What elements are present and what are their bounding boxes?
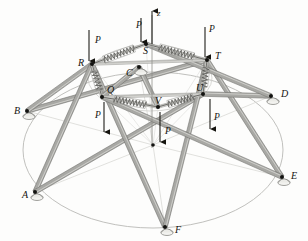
- load-label-Q: P: [94, 110, 101, 120]
- strut-F-R-highlight: [93, 64, 166, 227]
- load-T: P: [205, 24, 215, 57]
- node-dot-B: [25, 109, 29, 113]
- load-label-V: P: [164, 126, 171, 136]
- support-A: [31, 194, 43, 201]
- node-dot-T: [205, 58, 209, 62]
- figure-canvas: z PPPPPP QRSTUVABCDEF: [0, 0, 308, 241]
- load-Q: P: [94, 102, 104, 132]
- node-label-R: R: [77, 57, 84, 68]
- support-E: [278, 179, 290, 186]
- node-label-Q: Q: [107, 84, 115, 95]
- support-D: [267, 98, 279, 105]
- support-cap: [161, 229, 173, 233]
- node-label-A: A: [21, 189, 29, 200]
- support-cap: [278, 179, 290, 183]
- node-label-F: F: [174, 224, 182, 235]
- load-label-R: P: [94, 35, 101, 45]
- node-label-D: D: [280, 88, 289, 99]
- load-label-T: P: [208, 24, 215, 34]
- node-label-S: S: [143, 45, 148, 56]
- support-cap: [31, 194, 43, 198]
- load-R: P: [89, 30, 101, 61]
- support-F: [161, 229, 173, 236]
- strut-group: [26, 42, 284, 228]
- support-B: [23, 113, 35, 120]
- node-dot-center: [151, 143, 155, 147]
- dome-structure-diagram: z PPPPPP QRSTUVABCDEF: [0, 0, 308, 241]
- node-label-C: C: [126, 67, 133, 78]
- support-C: [135, 69, 147, 76]
- node-dot-D: [269, 94, 273, 98]
- node-label-B: B: [14, 105, 20, 116]
- node-label-T: T: [215, 50, 222, 61]
- node-dot-Q: [100, 95, 104, 99]
- node-dot-A: [33, 190, 37, 194]
- node-label-U: U: [196, 82, 204, 93]
- node-dot-E: [280, 175, 284, 179]
- load-U: P: [210, 99, 220, 129]
- node-dot-C: [137, 65, 141, 69]
- node-dot-F: [163, 225, 167, 229]
- guide-line: [27, 111, 153, 145]
- node-label-E: E: [290, 170, 297, 181]
- support-cap: [23, 113, 35, 117]
- load-label-U: P: [213, 112, 220, 122]
- load-label-S: P: [135, 20, 142, 30]
- guide-line: [153, 107, 158, 145]
- z-axis-label: z: [156, 8, 161, 18]
- node-dot-R: [90, 62, 94, 66]
- load-S: P: [135, 18, 142, 42]
